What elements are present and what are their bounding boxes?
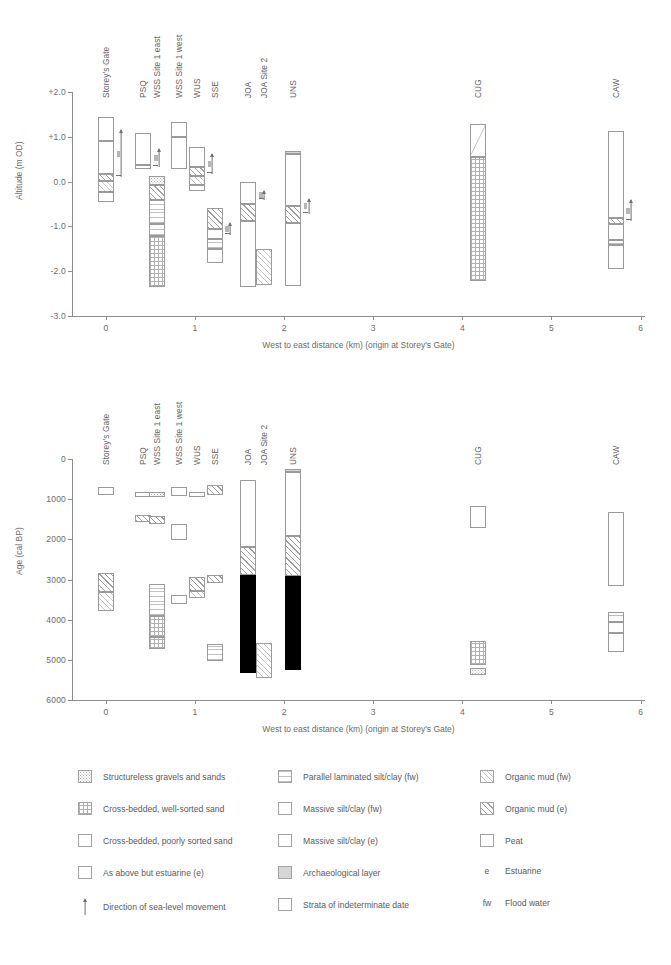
legend-item: As above but estuarine (e) bbox=[78, 866, 204, 879]
strat-segment-cross-bedded-well-sorted-sand bbox=[470, 157, 486, 281]
y-tick-label: 2000 bbox=[28, 534, 66, 544]
y-tick bbox=[68, 271, 72, 272]
strat-segment-parallel-laminated-silt-clay-fw bbox=[149, 200, 165, 224]
arrow-head bbox=[629, 199, 633, 203]
x-tick bbox=[462, 316, 463, 320]
x-tick-label: 0 bbox=[91, 707, 121, 717]
x-tick-label: 4 bbox=[447, 323, 477, 333]
arrow-head bbox=[83, 898, 87, 902]
site-label-wus: WUS bbox=[192, 445, 202, 465]
strat-segment-cross-bedded-well-sorted-sand bbox=[470, 641, 486, 665]
strat-segment-peat bbox=[240, 575, 256, 674]
legend: Structureless gravels and sandsCross-bed… bbox=[0, 770, 671, 950]
strat-segment-organic-mud-e bbox=[240, 204, 256, 221]
legend-item: Cross-bedded, poorly sorted sand bbox=[78, 834, 232, 847]
x-tick bbox=[641, 316, 642, 320]
legend-label: Cross-bedded, well-sorted sand bbox=[103, 804, 224, 814]
x-tick-label: 5 bbox=[536, 707, 566, 717]
x-tick-label: 2 bbox=[269, 707, 299, 717]
legend-label: Parallel laminated silt/clay (fw) bbox=[303, 772, 419, 782]
strat-column-uns bbox=[285, 151, 301, 285]
strat-column-psq bbox=[135, 133, 151, 169]
strat-segment-organic-mud-e bbox=[98, 573, 114, 591]
x-tick-label: 2 bbox=[269, 323, 299, 333]
y-tick-label: +1.0 bbox=[28, 132, 66, 142]
site-label-psq: PSQ bbox=[138, 447, 148, 465]
strat-segment-organic-mud-fw bbox=[98, 181, 114, 192]
x-tick bbox=[106, 316, 107, 320]
arrow-shaft bbox=[121, 130, 122, 177]
strat-segment-massive-silt-clay-e bbox=[240, 221, 256, 287]
strat-column-wss-site-1-east bbox=[149, 176, 165, 287]
x-tick-label: 0 bbox=[91, 323, 121, 333]
strat-segment-massive-silt-clay-fw bbox=[171, 122, 187, 137]
strat-segment-massive-silt-clay-e bbox=[189, 185, 205, 190]
legend-item: Archaeological layer bbox=[278, 866, 380, 879]
strat-segment-massive-silt-clay-fw bbox=[608, 512, 624, 586]
strat-segment-cross-bedded-well-sorted-sand bbox=[149, 236, 165, 287]
legend-abbreviation: e bbox=[480, 866, 494, 876]
structureless-gravels-swatch bbox=[78, 770, 92, 783]
x-tick-label: 4 bbox=[447, 707, 477, 717]
y-tick-label: 5000 bbox=[28, 655, 66, 665]
y-tick bbox=[68, 660, 72, 661]
strat-segment-parallel-laminated-silt-clay-fw bbox=[149, 584, 165, 616]
legend-item: Organic mud (fw) bbox=[480, 770, 571, 783]
y-axis-line bbox=[72, 459, 73, 700]
arrow-head bbox=[307, 198, 311, 202]
error-bar-box bbox=[117, 151, 121, 157]
x-axis-line bbox=[72, 700, 645, 701]
strat-segment-structureless-gravels-and-sands bbox=[149, 492, 165, 496]
legend-label: Direction of sea-level movement bbox=[103, 902, 226, 912]
indeterminate-strata-swatch bbox=[278, 898, 292, 911]
archaeological-layer-swatch bbox=[278, 866, 292, 879]
site-label-caw: CAW bbox=[611, 446, 621, 465]
x-tick bbox=[551, 700, 552, 704]
estuarine-variant-swatch bbox=[78, 866, 92, 879]
site-label-wss-site-1-east: WSS Site 1 east bbox=[152, 36, 162, 98]
y-tick bbox=[68, 182, 72, 183]
y-axis-line bbox=[72, 92, 73, 316]
legend-label: Estuarine bbox=[505, 866, 541, 876]
x-axis-title: West to east distance (km) (origin at St… bbox=[72, 340, 645, 350]
strat-segment-massive-silt-clay-fw bbox=[189, 147, 205, 167]
strat-column-uns bbox=[285, 469, 301, 670]
site-label-cug: CUG bbox=[473, 446, 483, 465]
y-tick bbox=[68, 316, 72, 317]
x-tick bbox=[641, 700, 642, 704]
y-tick bbox=[68, 459, 72, 460]
cross-bedded-well-sorted-swatch bbox=[78, 802, 92, 815]
legend-item: Strata of indeterminate date bbox=[278, 898, 409, 911]
y-axis-title: Age (cal BP) bbox=[14, 527, 24, 575]
error-bar-box bbox=[626, 208, 630, 214]
strat-segment-structureless-gravels-and-sands bbox=[149, 176, 165, 185]
y-tick bbox=[68, 700, 72, 701]
strat-segment-massive-silt-clay-fw bbox=[608, 633, 624, 652]
y-tick bbox=[68, 92, 72, 93]
x-tick-label: 5 bbox=[536, 323, 566, 333]
strat-segment-parallel-laminated-silt-clay-fw bbox=[608, 612, 624, 622]
strat-column-joa-site-2 bbox=[256, 643, 272, 678]
strat-segment-massive-silt-clay-e bbox=[98, 487, 114, 495]
strat-segment-massive-silt-clay-fw bbox=[189, 492, 205, 497]
x-tick bbox=[551, 316, 552, 320]
y-tick-label: 0.0 bbox=[28, 177, 66, 187]
strat-segment-massive-silt-clay-fw bbox=[285, 472, 301, 536]
site-label-uns: UNS bbox=[288, 80, 298, 98]
y-tick-label: -3.0 bbox=[28, 311, 66, 321]
strat-segment-massive-silt-clay-fw bbox=[240, 182, 256, 204]
site-label-wss-site-1-west: WSS Site 1 west bbox=[174, 35, 184, 98]
y-tick-label: 1000 bbox=[28, 494, 66, 504]
error-bar-box bbox=[304, 203, 308, 209]
strat-segment-organic-mud-e bbox=[285, 206, 301, 223]
legend-label: Flood water bbox=[505, 898, 550, 908]
strat-segment-massive-silt-clay-fw bbox=[470, 506, 486, 528]
legend-label: Organic mud (fw) bbox=[505, 772, 571, 782]
legend-item: Cross-bedded, well-sorted sand bbox=[78, 802, 224, 815]
error-bar-box bbox=[208, 161, 212, 167]
x-tick bbox=[195, 316, 196, 320]
organic-mud-fw-swatch bbox=[480, 770, 494, 783]
strat-column-wss-site-1-west bbox=[171, 487, 187, 603]
strat-segment-structureless-gravels-and-sands bbox=[470, 668, 486, 675]
massive-silt-e-swatch bbox=[278, 834, 292, 847]
